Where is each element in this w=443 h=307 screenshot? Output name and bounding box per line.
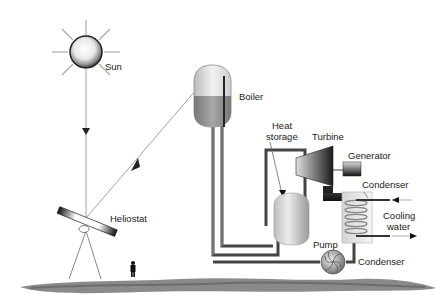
boiler xyxy=(194,65,231,127)
label-boiler: Boiler xyxy=(239,91,263,102)
ground xyxy=(20,278,436,293)
heliostat xyxy=(57,207,117,279)
reflected-ray xyxy=(86,90,196,218)
person-icon xyxy=(131,261,136,277)
label-sun: Sun xyxy=(105,61,122,72)
label-pump: Pump xyxy=(313,239,338,250)
label-condenser-top: Condenser xyxy=(362,179,408,190)
label-heat-storage-1: Heat xyxy=(272,120,292,131)
label-cooling-water-2: water xyxy=(387,221,410,232)
turbine xyxy=(296,146,345,201)
heat-storage-tank xyxy=(274,193,309,245)
label-heat-storage-2: storage xyxy=(266,131,298,142)
incoming-ray xyxy=(82,68,90,218)
generator xyxy=(343,162,361,176)
label-cooling-water-1: Cooling xyxy=(383,210,415,221)
label-heliostat: Heliostat xyxy=(110,213,147,224)
label-turbine: Turbine xyxy=(312,131,344,142)
pump xyxy=(321,250,345,274)
label-condenser-bottom: Condenser xyxy=(358,256,404,267)
label-generator: Generator xyxy=(348,150,391,161)
